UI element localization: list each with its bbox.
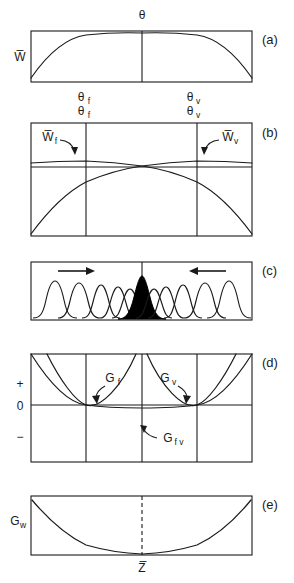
- svg-text:w: w: [19, 520, 27, 530]
- svg-text:v: v: [196, 96, 201, 106]
- panel-c-label: (c): [262, 263, 277, 278]
- panel-d-label-gv: G v: [160, 371, 191, 404]
- panel-b-label: (b): [262, 125, 278, 140]
- panel-c-arrow-left: [189, 267, 226, 275]
- svg-text:θ: θ: [187, 104, 194, 118]
- panel-a-y-axis-label: W̅: [14, 50, 26, 64]
- svg-text:G: G: [10, 514, 19, 528]
- panel-d-label-gfv: G f v: [140, 425, 184, 447]
- panel-c-arrow-right: [58, 267, 95, 275]
- panel-d-tick-plus: +: [16, 377, 23, 391]
- panel-e-label: (e): [262, 497, 278, 512]
- svg-text:θ: θ: [78, 104, 85, 118]
- panel-a-top-label: θ: [139, 8, 146, 22]
- panel-e: G w Z̅ (e): [10, 496, 278, 575]
- svg-text:G: G: [160, 371, 169, 385]
- svg-text:θ: θ: [78, 90, 85, 104]
- svg-text:v: v: [196, 110, 201, 120]
- panel-a: θ W̅ θ f θ v (a): [14, 8, 278, 106]
- panel-d-label: (d): [262, 355, 278, 370]
- svg-text:f: f: [55, 136, 58, 146]
- panel-d-tick-zero: 0: [17, 399, 24, 413]
- svg-text:v: v: [234, 136, 239, 146]
- figure-container: θ W̅ θ f θ v (a) θ f θ v W̅: [0, 0, 294, 583]
- panel-e-y-axis-label: G w: [10, 514, 27, 530]
- panel-c: (c): [31, 262, 277, 320]
- svg-text:f: f: [88, 110, 91, 120]
- svg-text:f: f: [88, 96, 91, 106]
- panel-a-label: (a): [262, 32, 278, 47]
- panel-b-arrowhead-v: [201, 147, 208, 155]
- panel-b-top-label-theta-f: θ f: [78, 104, 91, 120]
- panel-b: θ f θ v W̅ f W̅ v (b): [31, 104, 278, 236]
- panel-b-label-wbar-f: W̅ f: [42, 130, 78, 155]
- panel-e-bottom-label: Z̅: [138, 561, 147, 575]
- panel-d-tick-minus: −: [16, 430, 23, 444]
- panel-c-gaussian-center-filled: [118, 276, 166, 319]
- panel-d-curve-gf: [47, 354, 136, 406]
- svg-text:θ: θ: [187, 90, 194, 104]
- svg-text:f v: f v: [175, 437, 185, 447]
- panel-d: + 0 − G f G v G f v (d): [16, 354, 277, 462]
- panel-b-label-wbar-v: W̅ v: [201, 130, 239, 155]
- panel-d-leader-gfv: [144, 430, 157, 438]
- svg-text:W̅: W̅: [42, 130, 54, 144]
- svg-text:W̅: W̅: [222, 130, 234, 144]
- svg-text:G: G: [105, 371, 114, 385]
- panel-b-arrowhead-f: [71, 147, 78, 155]
- svg-text:G: G: [163, 431, 172, 445]
- svg-text:v: v: [172, 377, 177, 387]
- panel-b-top-label-theta-v: θ v: [187, 104, 201, 120]
